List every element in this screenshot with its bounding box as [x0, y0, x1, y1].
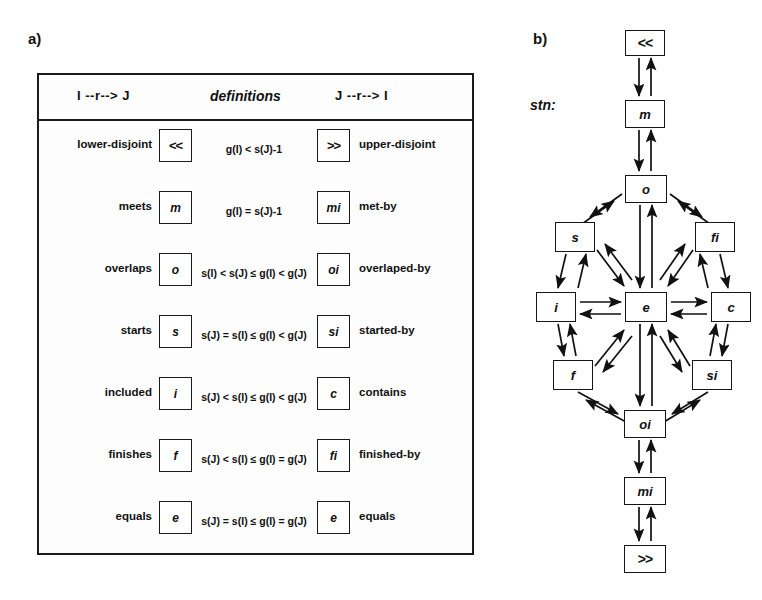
graph-node-oi: oi: [624, 410, 666, 438]
relation-definition: g(I) < s(J)-1: [226, 143, 282, 155]
graph-node-mi: mi: [624, 477, 666, 505]
relation-symbol-box-left: m: [159, 191, 192, 224]
relation-symbol-box-left: <<: [159, 129, 192, 162]
relation-definition: s(I) < s(J) ≤ g(I) < g(J): [201, 267, 307, 279]
graph-node-m: m: [625, 100, 665, 128]
definition-cell: g(I) < s(J)-1: [194, 139, 314, 157]
relation-definition: s(J) = s(I) ≤ g(I) = g(J): [201, 515, 307, 527]
graph-node-e: e: [625, 292, 667, 322]
panel-a-label: a): [28, 30, 41, 47]
relation-symbol-box-right: si: [317, 315, 350, 348]
relation-symbol-box-right: e: [317, 501, 350, 534]
relations-table: I --r--> J definitions J --r--> I lower-…: [37, 73, 474, 555]
graph-node-gt: >>: [624, 545, 666, 573]
relation-symbol-box-left: o: [159, 253, 192, 286]
relation-name-left: meets: [49, 200, 152, 212]
relation-name-right: met-by: [359, 200, 397, 212]
table-row: equalses(J) = s(I) ≤ g(I) = g(J)eequals: [39, 493, 472, 547]
relation-symbol-box-left: s: [159, 315, 192, 348]
definition-cell: s(J) = s(I) ≤ g(I) < g(J): [194, 325, 314, 343]
definition-cell: s(I) < s(J) ≤ g(I) < g(J): [194, 263, 314, 281]
relation-name-left: lower-disjoint: [49, 138, 152, 150]
graph-node-f: f: [553, 360, 593, 390]
graph-node-c: c: [711, 292, 751, 322]
graph-node-si: si: [692, 360, 732, 390]
table-row: includedis(J) < s(I) ≤ g(I) < g(J)cconta…: [39, 369, 472, 423]
table-row: startsss(J) = s(I) ≤ g(I) < g(J)sistarte…: [39, 307, 472, 361]
graph-node-fi: fi: [695, 222, 735, 252]
header-right: J --r--> I: [335, 88, 388, 103]
relation-symbol-box-right: oi: [317, 253, 350, 286]
relation-symbol-box-right: fi: [317, 439, 350, 472]
stn-graph: <<mosfiiecfsioimi>>: [498, 18, 762, 590]
relation-definition: g(I) = s(J)-1: [226, 205, 282, 217]
graph-node-i: i: [536, 292, 576, 322]
relation-name-right: overlaped-by: [359, 262, 431, 274]
definition-cell: s(J) < s(I) ≤ g(I) = g(J): [194, 449, 314, 467]
graph-node-o: o: [625, 175, 667, 203]
table-row: lower-disjoint<<g(I) < s(J)-1>>upper-dis…: [39, 121, 472, 175]
graph-node-lt: <<: [625, 30, 665, 56]
relation-name-left: starts: [49, 324, 152, 336]
relation-symbol-box-right: mi: [317, 191, 350, 224]
relation-name-left: equals: [49, 510, 152, 522]
relation-symbol-box-right: c: [317, 377, 350, 410]
graph-node-s: s: [555, 222, 595, 252]
header-middle: definitions: [210, 88, 281, 104]
relation-definition: s(J) < s(I) ≤ g(I) = g(J): [201, 453, 307, 465]
definition-cell: s(J) = s(I) ≤ g(I) = g(J): [194, 511, 314, 529]
relation-name-left: overlaps: [49, 262, 152, 274]
table-header-row: I --r--> J definitions J --r--> I: [39, 75, 472, 121]
relation-definition: s(J) < s(I) ≤ g(I) < g(J): [201, 391, 307, 403]
table-row: overlapsos(I) < s(J) ≤ g(I) < g(J)oiover…: [39, 245, 472, 299]
table-row: meetsmg(I) = s(J)-1mimet-by: [39, 183, 472, 237]
relation-name-left: included: [49, 386, 152, 398]
definition-cell: g(I) = s(J)-1: [194, 201, 314, 219]
definition-cell: s(J) < s(I) ≤ g(I) < g(J): [194, 387, 314, 405]
relation-name-right: finished-by: [359, 448, 420, 460]
relation-symbol-box-left: e: [159, 501, 192, 534]
relation-symbol-box-right: >>: [317, 129, 350, 162]
relation-symbol-box-left: i: [159, 377, 192, 410]
relation-name-right: equals: [359, 510, 395, 522]
table-row: finishesfs(J) < s(I) ≤ g(I) = g(J)fifini…: [39, 431, 472, 485]
header-left: I --r--> J: [77, 88, 130, 103]
relation-symbol-box-left: f: [159, 439, 192, 472]
relation-name-right: contains: [359, 386, 406, 398]
relation-name-left: finishes: [49, 448, 152, 460]
relation-definition: s(J) = s(I) ≤ g(I) < g(J): [201, 329, 307, 341]
relation-name-right: upper-disjoint: [359, 138, 436, 150]
figure-root: a) b) stn: I --r--> J definitions J --r-…: [0, 0, 762, 600]
relation-name-right: started-by: [359, 324, 415, 336]
